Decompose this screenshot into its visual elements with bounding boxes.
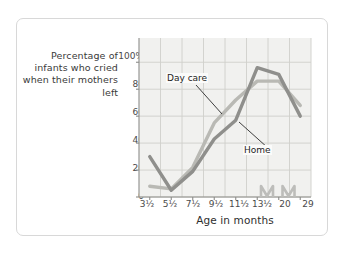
chart-figure: Percentage of infants who cried when the… — [0, 0, 346, 255]
series-annotation-day-care: Day care — [166, 73, 208, 83]
series-annotation-home: Home — [243, 145, 272, 155]
plot-area — [0, 0, 346, 255]
